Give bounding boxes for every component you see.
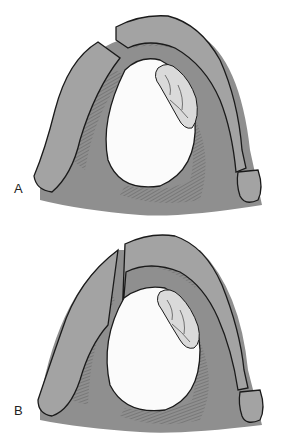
diagram-b-svg [0,220,282,440]
panel-label-b: B [14,403,23,418]
bone-segment-right-cap [237,170,261,202]
diagram-a-svg [0,0,282,220]
figure-panel-b: B [0,220,282,440]
figure-panel-a: A [0,0,282,220]
panel-label-a: A [14,181,23,196]
bone-segment-right-cap [239,390,263,422]
